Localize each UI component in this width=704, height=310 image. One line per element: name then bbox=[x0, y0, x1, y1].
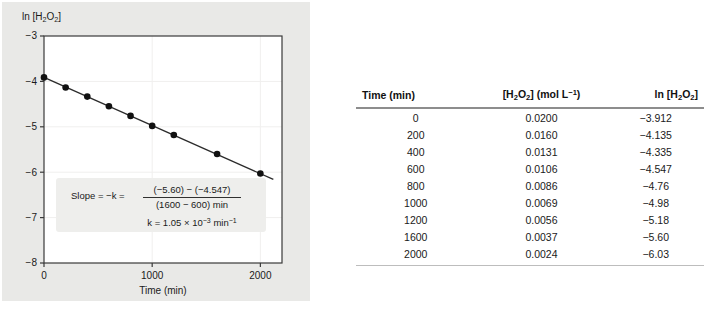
table-row: 8000.0086−4.76 bbox=[356, 177, 704, 194]
cell-concentration: 0.0160 bbox=[476, 126, 608, 143]
cell-concentration: 0.0037 bbox=[476, 228, 608, 245]
cell-ln-concentration: −4.335 bbox=[607, 143, 704, 160]
y-axis-title: ln [H2O2] bbox=[22, 11, 61, 24]
chart-panel: −3−4−5−6−7−8 010002000 ln [H2O2] Time (m… bbox=[2, 2, 310, 301]
cell-ln-concentration: −5.60 bbox=[607, 228, 704, 245]
column-header-ln-concentration: ln [H2O2] bbox=[607, 88, 704, 107]
table-row: 6000.0106−4.547 bbox=[356, 160, 704, 177]
data-point bbox=[257, 170, 264, 177]
data-point bbox=[106, 103, 113, 110]
cell-ln-concentration: −4.98 bbox=[607, 194, 704, 211]
table-header-row: Time (min) [H2O2] (mol L−1) ln [H2O2] bbox=[356, 88, 704, 107]
cell-concentration: 0.0106 bbox=[476, 160, 608, 177]
y-axis: −3−4−5−6−7−8 bbox=[26, 30, 44, 268]
cell-time: 400 bbox=[356, 143, 476, 160]
table-row: 12000.0056−5.18 bbox=[356, 211, 704, 228]
table-row: 16000.0037−5.60 bbox=[356, 228, 704, 245]
cell-time: 200 bbox=[356, 126, 476, 143]
y-tick-label: −4 bbox=[26, 76, 38, 87]
column-header-time: Time (min) bbox=[356, 88, 476, 107]
data-table-panel: Time (min) [H2O2] (mol L−1) ln [H2O2] 00… bbox=[356, 88, 704, 288]
data-point bbox=[41, 74, 48, 81]
cell-time: 600 bbox=[356, 160, 476, 177]
cell-time: 1200 bbox=[356, 211, 476, 228]
y-tick-label: −7 bbox=[26, 212, 38, 223]
x-axis: 010002000 bbox=[41, 263, 272, 281]
annotation-denominator: (1600 − 600) min bbox=[156, 199, 228, 210]
slope-annotation: Slope = −k = (−5.60) − (−4.547) (1600 − … bbox=[56, 178, 266, 232]
cell-time: 800 bbox=[356, 177, 476, 194]
cell-concentration: 0.0069 bbox=[476, 194, 608, 211]
table-footer-rule bbox=[356, 262, 704, 266]
rule-line-bottom bbox=[356, 265, 704, 266]
table-head: Time (min) [H2O2] (mol L−1) ln [H2O2] bbox=[356, 88, 704, 109]
annotation-numerator: (−5.60) − (−4.547) bbox=[154, 184, 231, 195]
cell-concentration: 0.0056 bbox=[476, 211, 608, 228]
x-tick-label: 2000 bbox=[249, 270, 272, 281]
cell-time: 1600 bbox=[356, 228, 476, 245]
x-tick-label: 0 bbox=[41, 270, 47, 281]
cell-concentration: 0.0131 bbox=[476, 143, 608, 160]
annotation-rate-constant: k = 1.05 × 10−3 min−1 bbox=[147, 217, 236, 228]
table-row: 4000.0131−4.335 bbox=[356, 143, 704, 160]
figure-root: −3−4−5−6−7−8 010002000 ln [H2O2] Time (m… bbox=[0, 0, 704, 310]
kinetics-data-table: Time (min) [H2O2] (mol L−1) ln [H2O2] 00… bbox=[356, 88, 704, 266]
cell-concentration: 0.0024 bbox=[476, 245, 608, 262]
kinetics-scatter-chart: −3−4−5−6−7−8 010002000 ln [H2O2] Time (m… bbox=[2, 2, 310, 301]
y-tick-label: −6 bbox=[26, 167, 38, 178]
cell-ln-concentration: −6.03 bbox=[607, 245, 704, 262]
data-point bbox=[62, 84, 69, 91]
table-row: 20000.0024−6.03 bbox=[356, 245, 704, 262]
y-tick-label: −8 bbox=[26, 257, 38, 268]
y-tick-label: −3 bbox=[26, 30, 38, 41]
cell-ln-concentration: −4.135 bbox=[607, 126, 704, 143]
annotation-slope-label: Slope = −k = bbox=[71, 190, 125, 201]
cell-concentration: 0.0086 bbox=[476, 177, 608, 194]
table-body: 00.0200−3.9122000.0160−4.1354000.0131−4.… bbox=[356, 109, 704, 262]
data-point bbox=[214, 151, 221, 158]
cell-ln-concentration: −4.76 bbox=[607, 177, 704, 194]
table-foot bbox=[356, 262, 704, 266]
cell-ln-concentration: −5.18 bbox=[607, 211, 704, 228]
table-row: 2000.0160−4.135 bbox=[356, 126, 704, 143]
x-tick-label: 1000 bbox=[141, 270, 164, 281]
data-point bbox=[149, 123, 156, 130]
y-tick-label: −5 bbox=[26, 121, 38, 132]
column-header-concentration: [H2O2] (mol L−1) bbox=[476, 88, 608, 107]
x-axis-title: Time (min) bbox=[139, 285, 186, 296]
table-footer-rule-row bbox=[356, 262, 704, 266]
data-point bbox=[84, 93, 91, 100]
cell-time: 0 bbox=[356, 109, 476, 126]
data-point bbox=[171, 132, 178, 139]
cell-ln-concentration: −3.912 bbox=[607, 109, 704, 126]
table-row: 00.0200−3.912 bbox=[356, 109, 704, 126]
cell-ln-concentration: −4.547 bbox=[607, 160, 704, 177]
cell-time: 2000 bbox=[356, 245, 476, 262]
table-row: 10000.0069−4.98 bbox=[356, 194, 704, 211]
data-point bbox=[127, 113, 134, 120]
cell-time: 1000 bbox=[356, 194, 476, 211]
cell-concentration: 0.0200 bbox=[476, 109, 608, 126]
